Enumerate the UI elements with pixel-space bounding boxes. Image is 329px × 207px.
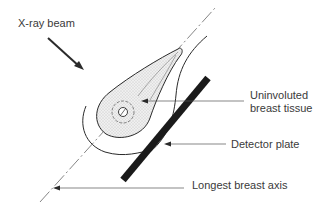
mammography-positioning-diagram: X-ray beam Uninvoluted breast tissue Det… [0, 0, 329, 207]
tissue-label-line1: Uninvoluted [250, 89, 312, 102]
leader-line-detector [164, 142, 226, 147]
detector-plate-label: Detector plate [231, 138, 299, 151]
tissue-label-line2: breast tissue [250, 102, 312, 115]
uninvoluted-tissue-label: Uninvoluted breast tissue [250, 89, 312, 115]
leader-line-axis [53, 186, 184, 191]
xray-beam-label: X-ray beam [18, 17, 75, 30]
longest-axis-label: Longest breast axis [192, 179, 287, 192]
xray-beam-arrow-icon [48, 38, 84, 70]
